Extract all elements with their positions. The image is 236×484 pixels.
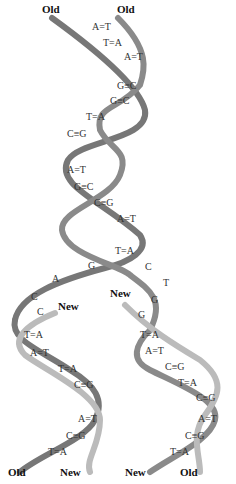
base-pair: T=A	[103, 37, 122, 48]
base-pair: T=A	[115, 245, 134, 256]
base-pair: G≡C	[110, 95, 130, 106]
label-new-bottom-2: New	[125, 466, 146, 478]
base-pair: T=A	[48, 446, 67, 457]
base-pair: T=A	[86, 111, 105, 122]
base-pair: A=T	[145, 345, 164, 356]
fork-base-right: G	[138, 309, 145, 320]
base-pair: A=T	[30, 347, 49, 358]
fork-base-left: G	[88, 260, 95, 271]
base-pair: C≡G	[94, 197, 114, 208]
label-new-right: New	[110, 287, 131, 299]
base-pair: C≡G	[165, 361, 185, 372]
base-pair: A=T	[198, 413, 217, 424]
base-pair: C≡G	[66, 430, 86, 441]
base-pair: A=T	[78, 413, 97, 424]
fork-base-left: C	[31, 291, 38, 302]
base-pair: A=T	[117, 213, 136, 224]
label-old-bottom-1: Old	[8, 466, 26, 478]
label-old-bottom-2: Old	[180, 466, 198, 478]
dna-replication-diagram	[0, 0, 236, 484]
fork-base-right: T	[163, 277, 169, 288]
base-pair: C≡G	[74, 379, 94, 390]
label-new-left: New	[58, 300, 79, 312]
base-pair: T=A	[178, 377, 197, 388]
base-pair: A=T	[124, 51, 143, 62]
base-pair: C≡G	[67, 128, 87, 139]
base-pair: T=A	[140, 329, 159, 340]
fork-base-left: C	[37, 306, 44, 317]
base-pair: A=T	[92, 21, 111, 32]
label-new-bottom-1: New	[60, 466, 81, 478]
label-old-top-right: Old	[117, 3, 135, 15]
base-pair: G≡C	[117, 80, 137, 91]
base-pair: G≡C	[74, 181, 94, 192]
base-pair: C≡G	[185, 430, 205, 441]
base-pair: T=A	[58, 363, 77, 374]
base-pair: A=T	[67, 164, 86, 175]
fork-base-left: A	[52, 273, 59, 284]
base-pair: C≡G	[196, 392, 216, 403]
fork-base-right: G	[151, 294, 158, 305]
base-pair: T=A	[24, 329, 43, 340]
fork-base-right: C	[145, 261, 152, 272]
base-pair: T=A	[170, 446, 189, 457]
label-old-top-left: Old	[42, 3, 60, 15]
